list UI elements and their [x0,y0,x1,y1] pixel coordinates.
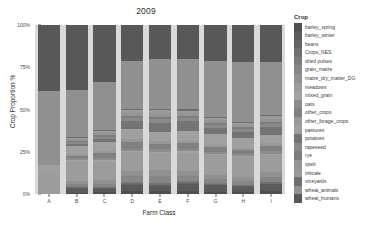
x-tick-label: B [75,198,78,204]
legend-item-label: spelt [305,160,316,169]
legend-item[interactable]: wheat_animals [294,186,373,195]
bar-segment [38,165,60,175]
legend-item[interactable]: wheat_humans [294,194,373,203]
legend-item-label: barley_spring [305,23,335,32]
legend-swatch [294,143,302,152]
legend-swatch [294,177,302,186]
legend-item-label: wheat_animals [305,186,338,195]
legend-swatch [294,100,302,109]
legend-swatch [294,74,302,83]
y-tick-label: 75% [20,64,30,70]
legend-item[interactable]: beans [294,40,373,49]
legend-swatch [294,134,302,143]
x-tick-label: F [186,198,189,204]
y-axis-ticks: 0%25%50%75%100% [8,0,34,234]
legend-item[interactable]: Crops_NES [294,48,373,57]
bar-B [66,25,88,194]
legend-item[interactable]: maize_dry_matter_DG [294,74,373,83]
legend-item[interactable]: other_forage_crops [294,117,373,126]
legend-swatch [294,169,302,178]
bar-segment [38,91,60,165]
bar-segment [121,142,143,149]
bar-A [38,25,60,194]
legend-swatch [294,65,302,74]
bar-segment [177,184,199,192]
bar-segment [177,131,199,140]
x-axis-title: Farm Class [33,209,285,216]
bar-segment [149,123,171,132]
x-tick-label: D [130,198,134,204]
bar-segment [93,142,115,151]
legend-swatch [294,91,302,100]
legend-item-label: mixed_grain [305,91,332,100]
legend-item[interactable]: mixed_grain [294,91,373,100]
legend-item[interactable]: vineyards [294,177,373,186]
x-tick-label: I [270,198,271,204]
x-tick-mark [243,194,244,197]
legend-swatch [294,186,302,195]
bar-segment [260,127,282,135]
legend-item-label: dried pulses [305,57,332,66]
y-tick-label: 100% [17,22,30,28]
legend-item[interactable]: barley_spring [294,23,373,32]
bar-segment [121,185,143,192]
legend-item[interactable]: meadows [294,83,373,92]
legend-swatch [294,23,302,32]
bar-segment [232,62,254,122]
bar-segment [177,59,199,110]
legend-item[interactable]: oats [294,100,373,109]
legend-item[interactable]: spelt [294,160,373,169]
legend-item-label: barley_winter [305,31,335,40]
bar-segment [204,61,226,117]
bar-segment [204,128,226,135]
bar-segment [260,184,282,191]
legend-item-label: Crops_NES [305,48,331,57]
legend-swatch [294,151,302,160]
bar-segment [93,82,115,130]
legend: Crop barley_springbarley_winterbeansCrop… [294,14,373,203]
bar-segment [121,121,143,129]
legend-item[interactable]: other_crops [294,108,373,117]
bar-segment [38,175,60,194]
legend-item[interactable]: potatoes [294,134,373,143]
legend-title: Crop [294,14,373,20]
bar-G [204,25,226,194]
bar-segment [38,25,60,91]
legend-item[interactable]: rapeseed [294,143,373,152]
bar-segment [66,161,88,181]
x-tick-mark [271,194,272,197]
legend-item[interactable]: dried pulses [294,57,373,66]
legend-item-label: meadows [305,83,326,92]
legend-item-label: oats [305,100,314,109]
x-tick-mark [215,194,216,197]
legend-item[interactable]: triticale [294,169,373,178]
bar-segment [121,129,143,139]
bar-segment [149,25,171,59]
bar-segment [177,25,199,59]
legend-swatch [294,160,302,169]
bar-segment [232,157,254,177]
legend-item-label: beans [305,40,319,49]
legend-item[interactable]: pastures [294,126,373,135]
bar-segment [149,153,171,170]
legend-swatch [294,48,302,57]
legend-item[interactable]: rye [294,151,373,160]
legend-item[interactable]: grain_maize [294,65,373,74]
x-tick-label: G [214,198,218,204]
plot-panel [35,25,285,194]
bar-segment [260,25,282,62]
legend-item-label: pastures [305,126,324,135]
legend-item[interactable]: barley_winter [294,31,373,40]
legend-swatch [294,194,302,203]
bar-segment [121,152,143,171]
legend-item-label: rye [305,151,312,160]
x-tick-mark [104,194,105,197]
bar-segment [204,25,226,61]
bar-segment [93,25,115,82]
bar-D [121,25,143,194]
legend-swatch [294,126,302,135]
legend-item-label: triticale [305,169,321,178]
legend-item-label: other_forage_crops [305,117,348,126]
legend-item-label: potatoes [305,134,324,143]
y-tick-label: 50% [20,107,30,113]
